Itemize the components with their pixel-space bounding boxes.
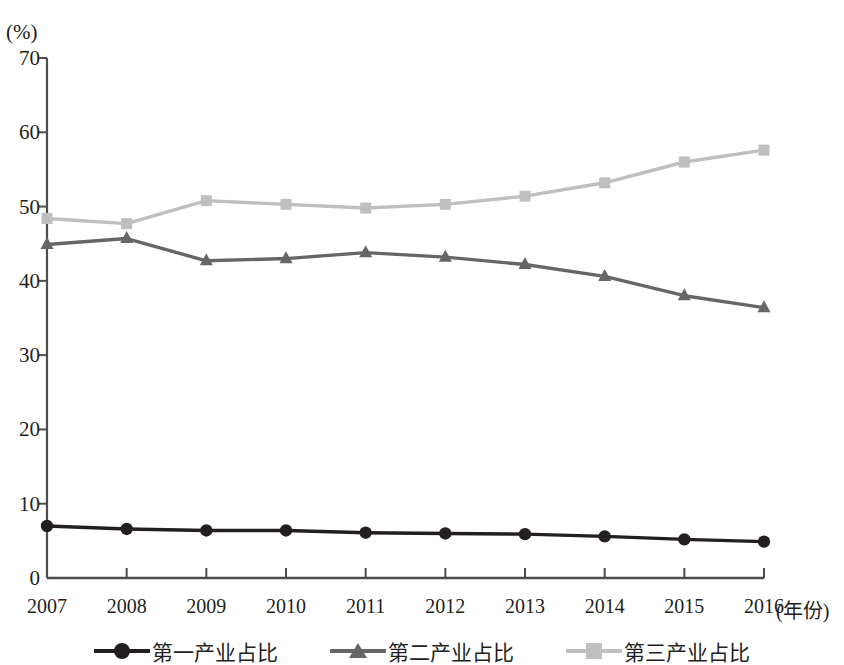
circle-marker [439, 527, 451, 539]
square-marker [201, 195, 212, 206]
circle-marker [359, 526, 371, 538]
square-marker [42, 213, 53, 224]
y-tick-label: 0 [0, 566, 40, 591]
y-tick-label: 60 [0, 120, 40, 145]
circle-marker [519, 528, 531, 540]
x-tick-label: 2010 [266, 595, 306, 618]
square-marker [281, 199, 292, 210]
series-line [47, 239, 764, 308]
circle-marker [598, 530, 610, 542]
square-marker [360, 203, 371, 214]
legend-label-tertiary-industry: 第三产业占比 [624, 636, 750, 665]
y-tick-label: 40 [0, 268, 40, 293]
y-tick-label: 70 [0, 46, 40, 71]
series-line [47, 526, 764, 542]
x-tick-label: 2014 [585, 595, 625, 618]
square-marker [520, 191, 531, 202]
y-tick-label: 30 [0, 343, 40, 368]
data-series-group [41, 145, 771, 548]
square-marker [679, 157, 690, 168]
legend-item-tertiary-industry[interactable]: 第三产业占比 [566, 636, 750, 665]
x-tick-label: 2015 [664, 595, 704, 618]
square-marker [121, 218, 132, 229]
circle-marker [120, 523, 132, 535]
x-tick-label: 2012 [425, 595, 465, 618]
square-marker [759, 145, 770, 156]
circle-marker [280, 524, 292, 536]
square-marker-key [566, 641, 622, 661]
x-axis-unit-label: (年份) [776, 595, 829, 624]
line-chart: (%) 010203040506070 20072008200920102011… [0, 0, 844, 665]
circle-marker [678, 533, 690, 545]
x-tick-label: 2008 [107, 595, 147, 618]
circle-marker [41, 520, 53, 532]
y-tick-label: 10 [0, 491, 40, 516]
circle-icon [114, 643, 130, 659]
x-tick-label: 2009 [186, 595, 226, 618]
x-tick-label: 2013 [505, 595, 545, 618]
legend-item-secondary-industry[interactable]: 第二产业占比 [330, 636, 514, 665]
triangle-marker-key [330, 641, 386, 661]
legend-label-primary-industry: 第一产业占比 [152, 636, 278, 665]
series-line [47, 150, 764, 224]
legend-item-primary-industry[interactable]: 第一产业占比 [94, 636, 278, 665]
square-marker [599, 177, 610, 188]
x-tick-label: 2007 [27, 595, 67, 618]
triangle-marker [120, 231, 133, 243]
circle-marker-key [94, 641, 150, 661]
x-tick-label: 2011 [346, 595, 385, 618]
axis-lines [38, 58, 764, 578]
y-tick-label: 50 [0, 194, 40, 219]
circle-marker [758, 535, 770, 547]
square-marker [440, 199, 451, 210]
legend-label-secondary-industry: 第二产业占比 [388, 636, 514, 665]
triangle-icon [349, 643, 367, 658]
plot-area [0, 0, 844, 665]
circle-marker [200, 524, 212, 536]
y-tick-label: 20 [0, 417, 40, 442]
chart-legend: 第一产业占比 第二产业占比 第三产业占比 [0, 636, 844, 665]
square-icon [586, 643, 602, 659]
